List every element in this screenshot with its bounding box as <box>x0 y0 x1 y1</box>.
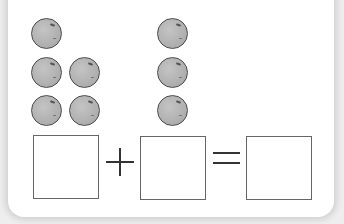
answer-box-sum[interactable] <box>246 136 312 200</box>
counter-ball <box>157 57 188 88</box>
counter-ball <box>157 18 188 49</box>
answer-box-first-addend[interactable] <box>33 135 99 199</box>
plus-sign <box>106 148 134 176</box>
counter-ball <box>69 57 100 88</box>
answer-box-second-addend[interactable] <box>140 136 206 200</box>
equals-sign <box>213 152 240 166</box>
counter-ball <box>69 95 100 126</box>
counter-ball <box>31 18 62 49</box>
counter-ball <box>31 95 62 126</box>
counter-ball <box>157 95 188 126</box>
counter-ball <box>31 57 62 88</box>
